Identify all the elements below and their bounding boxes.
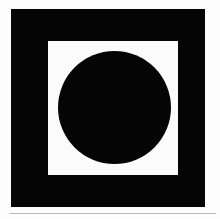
inner-circle-shape [58,51,171,164]
outer-square-shape [11,9,205,207]
separator-rule [10,213,216,214]
figure-canvas [0,0,220,219]
inner-square-shape [48,41,178,175]
